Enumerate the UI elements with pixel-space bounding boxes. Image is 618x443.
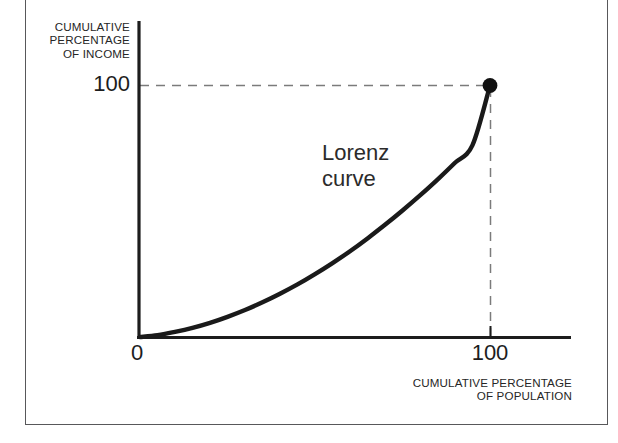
endpoint-marker: [483, 78, 498, 93]
x-axis-title: CUMULATIVE PERCENTAGE OF POPULATION: [380, 376, 572, 403]
y-axis-title: CUMULATIVE PERCENTAGE OF INCOME: [18, 20, 130, 60]
y-axis-tick-label-100: 100: [60, 72, 130, 96]
x-axis-tick-label-0: 0: [124, 341, 150, 365]
lorenz-curve-figure: CUMULATIVE PERCENTAGE OF INCOME CUMULATI…: [0, 0, 618, 443]
x-axis-tick-label-100: 100: [455, 341, 525, 365]
lorenz-curve-annotation-label: Lorenz curve: [322, 140, 434, 191]
lorenz-curve-path: [140, 86, 490, 338]
